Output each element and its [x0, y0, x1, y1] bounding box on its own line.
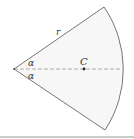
centroid-point [83, 68, 86, 71]
sector-shape [14, 7, 123, 130]
centroid-label: C [80, 56, 88, 67]
sector-diagram: r α α C [0, 0, 134, 139]
apex-point [13, 68, 15, 70]
angle-label-bottom: α [28, 71, 34, 81]
radius-label: r [56, 27, 61, 37]
angle-label-top: α [28, 58, 34, 68]
